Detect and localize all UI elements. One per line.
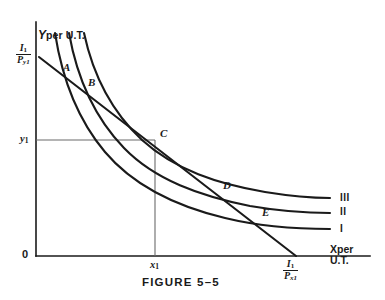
point-label-C: C: [160, 128, 167, 139]
x1-tick-label: x1: [150, 260, 159, 271]
indifference-curve-III: [84, 33, 330, 198]
point-label-D: D: [223, 180, 231, 191]
indifference-curve-II: [69, 33, 330, 213]
y1-tick-subscript: 1: [25, 136, 29, 145]
figure-container: Yper U.T. Xper U.T. 0 y1 x1 I1 Py1 I1 Px…: [0, 0, 385, 300]
y-axis-title-symbol: Y: [38, 28, 46, 42]
x-axis-title-unit-line2: U.T.: [330, 254, 349, 266]
x-intercept-label: I1 Px1: [283, 259, 298, 282]
x-intercept-fraction: I1 Px1: [283, 259, 298, 282]
origin-label: 0: [22, 249, 28, 260]
x1-tick-subscript: 1: [155, 262, 159, 271]
x-intercept-denominator-subscript: x1: [290, 274, 297, 282]
point-label-A: A: [63, 62, 70, 73]
point-label-E: E: [262, 207, 269, 218]
curve-label-II: II: [340, 207, 347, 217]
y-intercept-numerator-subscript: 1: [24, 46, 28, 54]
y-axis-title-unit: per U.T.: [46, 29, 85, 41]
y1-tick-label: y1: [20, 134, 28, 145]
x-intercept-denominator: Px1: [283, 270, 298, 282]
y-intercept-numerator: I1: [16, 43, 31, 54]
y-intercept-fraction: I1 Py1: [16, 43, 31, 66]
figure-caption: FIGURE 5–5: [142, 277, 220, 289]
x-intercept-numerator-subscript: 1: [291, 262, 295, 270]
x-intercept-numerator: I1: [283, 259, 298, 270]
curve-label-III: III: [340, 193, 350, 203]
indifference-curve-I: [55, 33, 330, 229]
y-axis-title: Yper U.T.: [38, 29, 85, 41]
y-intercept-denominator: Py1: [16, 54, 31, 66]
x-axis-title: Xper U.T.: [330, 244, 353, 265]
figure-canvas: [0, 0, 385, 300]
point-label-B: B: [88, 77, 95, 88]
curve-label-I: I: [340, 224, 343, 234]
y-intercept-denominator-subscript: y1: [23, 58, 30, 66]
y-intercept-label: I1 Py1: [16, 43, 31, 66]
budget-constraint-line: [39, 57, 296, 256]
